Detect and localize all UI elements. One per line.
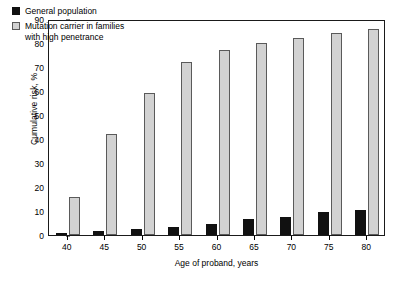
bar-mutation-carrier-40 [69,197,80,235]
x-axis-tick-mark-65 [254,236,255,240]
x-axis-tick-55: 55 [164,242,194,252]
x-axis-tick-mark-50 [142,236,143,240]
y-axis-tick-60: 60 [22,87,44,97]
y-axis-tick-20: 20 [22,183,44,193]
bar-general-population-45 [93,231,104,235]
y-axis-tick-50: 50 [22,111,44,121]
legend-label-general-population: General population [25,6,97,17]
x-axis-tick-mark-40 [67,236,68,240]
bar-general-population-50 [131,229,142,235]
legend-item-mutation-carrier: Mutation carrier in families with high p… [12,21,124,43]
x-axis-tick-mark-45 [104,236,105,240]
x-axis-tick-65: 65 [239,242,269,252]
x-axis-tick-mark-55 [179,236,180,240]
bar-general-population-65 [243,219,254,235]
y-axis-tick-10: 10 [22,207,44,217]
y-axis-tick-labels: 0102030405060708090 [22,20,44,236]
bar-general-population-60 [206,224,217,235]
x-axis-tick-45: 45 [89,242,119,252]
x-axis-tick-mark-60 [217,236,218,240]
y-axis-tick-30: 30 [22,159,44,169]
y-axis-tick-70: 70 [22,63,44,73]
x-axis-tick-mark-80 [366,236,367,240]
legend-swatch-icon-mutation-carrier [12,22,20,30]
bar-general-population-70 [280,217,291,235]
y-axis-tick-0: 0 [22,231,44,241]
x-axis-tick-70: 70 [276,242,306,252]
x-axis-label: Age of proband, years [48,258,385,268]
x-axis-tick-80: 80 [351,242,381,252]
bar-mutation-carrier-50 [144,93,155,235]
x-axis-tick-mark-75 [329,236,330,240]
bar-mutation-carrier-75 [331,33,342,235]
plot-area [48,20,385,236]
x-axis-tick-mark-70 [291,236,292,240]
bar-mutation-carrier-80 [368,29,379,235]
y-axis-tick-40: 40 [22,135,44,145]
x-axis-tick-40: 40 [52,242,82,252]
x-axis-tick-75: 75 [314,242,344,252]
legend-item-general-population: General population [12,6,124,17]
bar-mutation-carrier-65 [256,43,267,235]
bar-mutation-carrier-70 [293,38,304,235]
bars-layer [49,21,384,235]
legend-label-mutation-carrier: Mutation carrier in families with high p… [25,21,124,43]
bar-general-population-75 [318,212,329,235]
chart-figure: Cumulative risk, % 0102030405060708090 A… [0,0,400,281]
x-axis-tick-60: 60 [202,242,232,252]
legend: General population Mutation carrier in f… [12,6,124,47]
bar-mutation-carrier-55 [181,62,192,235]
legend-swatch-icon-general-population [12,7,20,15]
bar-general-population-80 [355,210,366,235]
bar-general-population-55 [168,227,179,235]
bar-general-population-40 [56,233,67,235]
x-axis-tick-50: 50 [127,242,157,252]
bar-mutation-carrier-45 [106,134,117,235]
bar-mutation-carrier-60 [219,50,230,235]
